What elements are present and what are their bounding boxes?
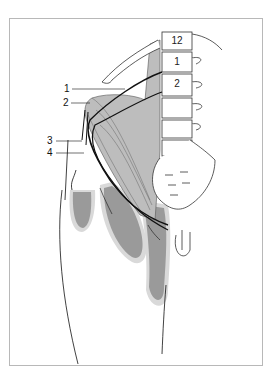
vertebra-label-l1: 1	[169, 57, 185, 67]
vertebra-label-t12: 12	[169, 36, 185, 46]
vertebra-label-l2: 2	[169, 79, 185, 89]
callout-label-1: 1	[64, 84, 70, 94]
callout-label-4: 4	[47, 148, 53, 158]
callout-label-3: 3	[47, 136, 53, 146]
callout-label-2: 2	[63, 98, 69, 108]
anatomy-illustration	[0, 0, 274, 379]
